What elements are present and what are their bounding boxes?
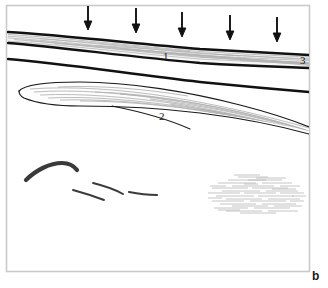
- layer-label-3: 3: [300, 55, 306, 66]
- layer-label-2: 2: [159, 111, 165, 122]
- layer-label-1: 1: [163, 51, 169, 62]
- panel-letter-label: b: [312, 270, 319, 282]
- figure-panel: 1 2 3 b: [0, 0, 328, 288]
- cross-section-drawing: [0, 0, 328, 288]
